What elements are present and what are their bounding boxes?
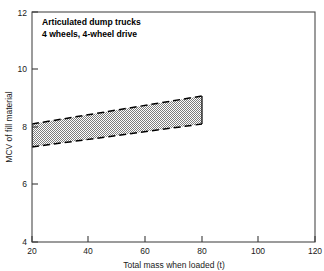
y-tick-label-6: 6 <box>22 179 27 189</box>
x-tick-label-20: 20 <box>27 246 37 256</box>
y-tick-label-8: 8 <box>22 122 27 132</box>
x-axis-title: Total mass when loaded (t) <box>123 260 225 270</box>
x-tick-label-80: 80 <box>197 246 207 256</box>
chart-figure: 4 6 8 10 12 MCV of fill material 20 40 6… <box>0 0 324 271</box>
x-tick-label-40: 40 <box>83 246 93 256</box>
annotation-line-1: Articulated dump trucks <box>42 17 141 27</box>
x-tick-label-60: 60 <box>140 246 150 256</box>
annotation-line-2: 4 wheels, 4-wheel drive <box>42 29 137 39</box>
mcv-vs-total-mass-chart: 4 6 8 10 12 MCV of fill material 20 40 6… <box>0 0 324 271</box>
x-tick-label-120: 120 <box>308 246 322 256</box>
y-axis-title: MCV of fill material <box>4 91 14 162</box>
x-tick-label-100: 100 <box>251 246 265 256</box>
y-tick-label-12: 12 <box>18 8 28 18</box>
y-tick-label-10: 10 <box>18 64 28 74</box>
